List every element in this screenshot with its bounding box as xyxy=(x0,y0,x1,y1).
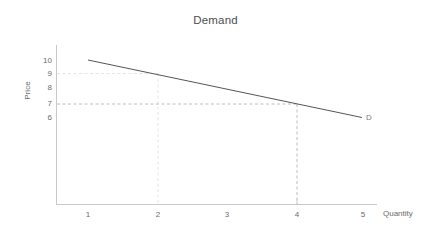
x-tick-label-3: 3 xyxy=(217,210,237,219)
x-tick-label-1: 1 xyxy=(78,210,98,219)
demand-curve-label: D xyxy=(366,113,372,122)
x-tick-label-5: 5 xyxy=(353,210,373,219)
x-axis-label: Quantity xyxy=(383,209,413,218)
y-tick-label-8: 8 xyxy=(30,83,52,92)
demand-curve-line xyxy=(88,60,362,118)
y-axis-label: Price xyxy=(23,74,32,108)
x-tick-label-2: 2 xyxy=(148,210,168,219)
y-tick-label-6: 6 xyxy=(30,113,52,122)
y-tick-label-10: 10 xyxy=(30,56,52,65)
y-tick-label-9: 9 xyxy=(30,69,52,78)
demand-curve-chart: Demand 10 9 8 7 6 1 2 3 4 5 Price Quanti… xyxy=(0,0,431,234)
x-tick-label-4: 4 xyxy=(287,210,307,219)
y-tick-label-7: 7 xyxy=(30,99,52,108)
